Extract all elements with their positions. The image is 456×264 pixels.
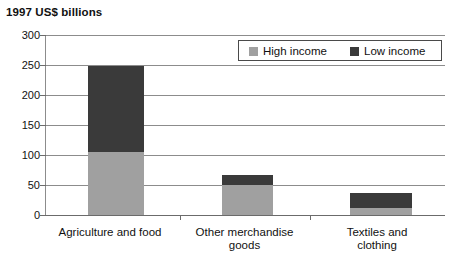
y-axis-label-100: 100 bbox=[22, 149, 40, 161]
category-label-line-2: goods bbox=[182, 239, 307, 252]
category-label-line-1: Other merchandise bbox=[182, 226, 307, 239]
bar-agriculture-and-food[interactable] bbox=[88, 66, 144, 215]
bar-other-merchandise-goods[interactable] bbox=[222, 175, 273, 215]
x-tick-separator-2 bbox=[310, 215, 311, 220]
y-axis-labels: 300 250 200 150 100 50 0 bbox=[0, 35, 40, 215]
category-label-textiles-and-clothing: Textiles and clothing bbox=[322, 226, 432, 252]
axis-baseline-0 bbox=[45, 215, 445, 216]
category-label-agriculture-and-food: Agriculture and food bbox=[45, 226, 175, 239]
y-tick-250 bbox=[40, 65, 46, 66]
legend-label-low-income: Low income bbox=[364, 45, 425, 57]
bar-segment-low-income-other-merchandise-goods[interactable] bbox=[222, 175, 273, 185]
bar-segment-high-income-textiles-and-clothing[interactable] bbox=[350, 208, 412, 215]
y-axis-label-200: 200 bbox=[22, 89, 40, 101]
bar-segment-high-income-agriculture-and-food[interactable] bbox=[88, 152, 144, 215]
y-tick-50 bbox=[40, 185, 46, 186]
x-tick-separator-1 bbox=[180, 215, 181, 220]
plot-area bbox=[45, 35, 445, 215]
legend-swatch-low-income-icon bbox=[350, 47, 359, 56]
chart-legend: High income Low income bbox=[238, 40, 442, 61]
category-label-other-merchandise-goods: Other merchandise goods bbox=[182, 226, 307, 252]
y-axis-label-50: 50 bbox=[28, 179, 40, 191]
bar-segment-high-income-other-merchandise-goods[interactable] bbox=[222, 185, 273, 215]
y-tick-150 bbox=[40, 125, 46, 126]
y-tick-300 bbox=[40, 35, 46, 36]
category-label-line-1: Textiles and bbox=[322, 226, 432, 239]
y-axis-label-150: 150 bbox=[22, 119, 40, 131]
y-tick-100 bbox=[40, 155, 46, 156]
bar-segment-low-income-textiles-and-clothing[interactable] bbox=[350, 193, 412, 208]
category-label-line-2: clothing bbox=[322, 239, 432, 252]
bar-segment-low-income-agriculture-and-food[interactable] bbox=[88, 66, 144, 152]
chart-axis-unit-title: 1997 US$ billions bbox=[6, 6, 102, 18]
legend-item-low-income[interactable]: Low income bbox=[350, 44, 425, 58]
y-tick-0 bbox=[40, 215, 46, 216]
legend-item-high-income[interactable]: High income bbox=[249, 44, 327, 58]
y-axis-label-250: 250 bbox=[22, 59, 40, 71]
y-tick-200 bbox=[40, 95, 46, 96]
y-axis-label-300: 300 bbox=[22, 29, 40, 41]
chart-container: 1997 US$ billions 300 250 200 150 100 50… bbox=[0, 0, 456, 264]
legend-label-high-income: High income bbox=[263, 45, 327, 57]
category-label-line-1: Agriculture and food bbox=[45, 226, 175, 239]
gridline-300 bbox=[45, 35, 445, 36]
legend-swatch-high-income-icon bbox=[249, 47, 258, 56]
bar-textiles-and-clothing[interactable] bbox=[350, 193, 412, 215]
